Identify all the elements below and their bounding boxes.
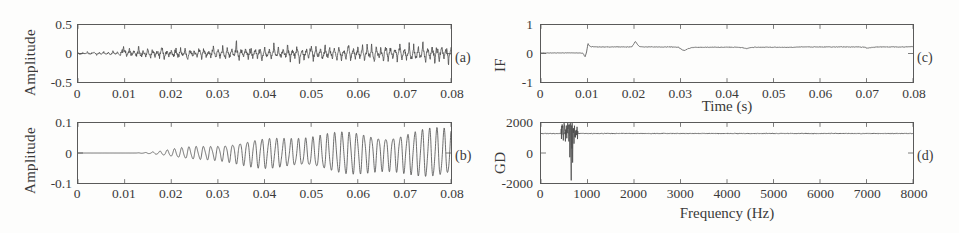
panel-d-xlabel: Frequency (Hz) [627,205,827,222]
panel-c-ytick-mid: 0 [505,46,533,62]
panel-c-ytick-top: 1 [505,17,533,33]
panel-d-plot-area [541,123,913,183]
panel-a-ytick-top: 0.5 [40,17,72,33]
panel-a-xtick-8: 0.08 [412,86,492,102]
panel-d-label: (d) [917,148,933,164]
figure-four-panel-signal-analysis: Amplitude 0.5 0 -0.5 (a) 00.010.020.030.… [0,0,959,233]
panel-c-xlabel: Time (s) [627,98,827,115]
panel-b-ytick-top: 0.1 [40,115,72,131]
panel-a-ytick-mid: 0 [40,46,72,62]
panel-c-axes [540,24,914,83]
panel-d-axes [540,122,914,184]
panel-b-label: (b) [455,148,471,164]
panel-b-axes [77,122,452,184]
panel-d-ytick-mid: 0 [486,146,533,162]
panel-d-xtick-8: 8000 [874,186,954,202]
panel-c-plot-area [541,25,913,82]
panel-d-ytick-top: 2000 [486,115,533,131]
panel-a-plot-area [78,25,451,82]
panel-a-axes [77,24,452,83]
panel-b-plot-area [78,123,451,183]
panel-a-label: (a) [455,50,471,66]
panel-b-ytick-mid: 0 [40,146,72,162]
panel-c-label: (c) [917,50,933,66]
panel-c-xtick-8: 0.08 [874,86,954,102]
